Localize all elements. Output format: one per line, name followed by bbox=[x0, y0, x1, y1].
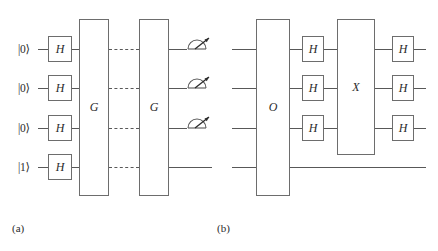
wire-segment-a2-pre-h bbox=[38, 128, 48, 129]
wire-segment-b1-o-to-h bbox=[290, 88, 302, 89]
gate-oracle-o[interactable]: O bbox=[256, 19, 290, 196]
qubit-init-label-3: |1⟩ bbox=[18, 160, 30, 174]
wire-segment-b0-h-to-x bbox=[324, 49, 337, 50]
wire-segment-a1-post-g2 bbox=[169, 88, 187, 89]
wire-segment-b1-x-to-h bbox=[375, 88, 392, 89]
wire-segment-a0-post-g2 bbox=[169, 49, 187, 50]
panel-caption-b: (b) bbox=[217, 222, 230, 234]
repeat-dashes-a2 bbox=[109, 128, 139, 129]
wire-segment-b2-x-to-h bbox=[375, 128, 392, 129]
quantum-circuit-figure: |0⟩ |0⟩ |0⟩ |1⟩ H H H H G G bbox=[0, 0, 438, 251]
gate-hadamard-b-right-2[interactable]: H bbox=[392, 115, 414, 141]
gate-grover-operator-1[interactable]: G bbox=[79, 19, 109, 196]
wire-segment-a3-h-to-g1 bbox=[72, 167, 79, 168]
gate-hadamard-a2[interactable]: H bbox=[48, 115, 72, 141]
gate-grover-operator-2[interactable]: G bbox=[139, 19, 169, 196]
meter-icon-a1[interactable] bbox=[186, 75, 212, 90]
wire-segment-a0-pre-h bbox=[38, 49, 48, 50]
wire-segment-b2-pre-o bbox=[232, 128, 256, 129]
qubit-init-label-2: |0⟩ bbox=[18, 121, 30, 135]
repeat-dashes-a0 bbox=[109, 49, 139, 50]
gate-hadamard-b-left-1[interactable]: H bbox=[302, 75, 324, 101]
gate-label: H bbox=[399, 121, 408, 136]
wire-segment-b0-x-to-h bbox=[375, 49, 392, 50]
wire-segment-b3-pre-o bbox=[232, 167, 256, 168]
gate-label: H bbox=[309, 121, 318, 136]
gate-label: H bbox=[309, 81, 318, 96]
gate-label: H bbox=[399, 81, 408, 96]
gate-label: O bbox=[269, 100, 278, 115]
gate-label: H bbox=[399, 42, 408, 57]
gate-label: H bbox=[56, 81, 65, 96]
gate-hadamard-a3[interactable]: H bbox=[48, 154, 72, 180]
gate-hadamard-b-left-2[interactable]: H bbox=[302, 115, 324, 141]
wire-segment-a2-post-g2 bbox=[169, 128, 187, 129]
wire-segment-b0-end bbox=[414, 49, 426, 50]
gate-hadamard-b-right-0[interactable]: H bbox=[392, 36, 414, 62]
wire-segment-a3-pre-h bbox=[38, 167, 48, 168]
gate-label: H bbox=[309, 42, 318, 57]
gate-label: H bbox=[56, 121, 65, 136]
panel-caption-a: (a) bbox=[12, 222, 24, 234]
wire-segment-a2-h-to-g1 bbox=[72, 128, 79, 129]
meter-icon-a2[interactable] bbox=[186, 115, 212, 130]
wire-segment-b1-pre-o bbox=[232, 88, 256, 89]
wire-segment-b0-pre-o bbox=[232, 49, 256, 50]
gate-label: H bbox=[56, 42, 65, 57]
wire-segment-b3-straight-through bbox=[290, 167, 426, 168]
repeat-dashes-a3 bbox=[109, 167, 139, 168]
wire-segment-b2-end bbox=[414, 128, 426, 129]
wire-segment-b2-o-to-h bbox=[290, 128, 302, 129]
wire-segment-b2-h-to-x bbox=[324, 128, 337, 129]
qubit-init-label-1: |0⟩ bbox=[18, 81, 30, 95]
wire-segment-a1-pre-h bbox=[38, 88, 48, 89]
qubit-init-label-0: |0⟩ bbox=[18, 42, 30, 56]
wire-segment-b1-h-to-x bbox=[324, 88, 337, 89]
gate-hadamard-b-right-1[interactable]: H bbox=[392, 75, 414, 101]
wire-segment-b0-o-to-h bbox=[290, 49, 302, 50]
gate-label: H bbox=[56, 160, 65, 175]
gate-phase-flip-x[interactable]: X bbox=[337, 19, 375, 155]
gate-hadamard-a1[interactable]: H bbox=[48, 75, 72, 101]
wire-segment-a3-post-g2 bbox=[169, 167, 212, 168]
wire-segment-a0-h-to-g1 bbox=[72, 49, 79, 50]
wire-segment-a1-h-to-g1 bbox=[72, 88, 79, 89]
wire-segment-b1-end bbox=[414, 88, 426, 89]
repeat-dashes-a1 bbox=[109, 88, 139, 89]
gate-label: X bbox=[352, 80, 359, 95]
gate-hadamard-a0[interactable]: H bbox=[48, 36, 72, 62]
gate-label: G bbox=[90, 100, 99, 115]
meter-icon-a0[interactable] bbox=[186, 36, 212, 51]
gate-hadamard-b-left-0[interactable]: H bbox=[302, 36, 324, 62]
gate-label: G bbox=[150, 100, 159, 115]
